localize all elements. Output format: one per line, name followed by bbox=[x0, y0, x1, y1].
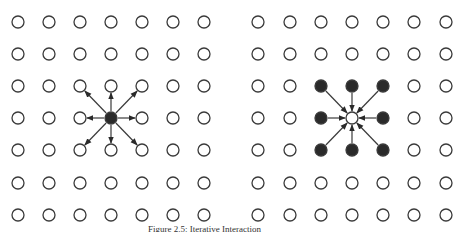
grid-node bbox=[167, 16, 179, 28]
grid-node bbox=[43, 177, 55, 189]
grid-node bbox=[105, 80, 117, 92]
grid-node bbox=[198, 112, 210, 124]
grid-node bbox=[440, 16, 452, 28]
grid-node bbox=[12, 177, 24, 189]
grid-node bbox=[167, 177, 179, 189]
grid-node bbox=[74, 177, 86, 189]
grid-node bbox=[198, 177, 210, 189]
grid-node bbox=[12, 16, 24, 28]
grid-node bbox=[74, 209, 86, 221]
grid-node bbox=[284, 144, 296, 156]
node-grid-diagram bbox=[0, 0, 466, 232]
grid-node bbox=[377, 80, 389, 92]
grid-node bbox=[408, 112, 420, 124]
grid-node bbox=[43, 80, 55, 92]
grid-node bbox=[136, 80, 148, 92]
grid-node bbox=[74, 80, 86, 92]
grid-node bbox=[315, 112, 327, 124]
grid-node bbox=[315, 16, 327, 28]
grid-node bbox=[105, 16, 117, 28]
grid-node bbox=[252, 144, 264, 156]
arrow bbox=[116, 123, 137, 145]
center-node bbox=[346, 112, 358, 124]
grid-node bbox=[346, 16, 358, 28]
grid-node bbox=[136, 209, 148, 221]
grid-node bbox=[346, 209, 358, 221]
grid-node bbox=[167, 112, 179, 124]
grid-node bbox=[12, 48, 24, 60]
grid-node bbox=[440, 209, 452, 221]
grid-node bbox=[346, 177, 358, 189]
grid-node bbox=[198, 48, 210, 60]
grid-node bbox=[198, 80, 210, 92]
arrow bbox=[326, 91, 347, 113]
grid-node bbox=[43, 144, 55, 156]
grid-node bbox=[377, 48, 389, 60]
grid-node bbox=[284, 112, 296, 124]
grid-node bbox=[408, 177, 420, 189]
grid-node bbox=[43, 48, 55, 60]
grid-node bbox=[136, 144, 148, 156]
grid-node bbox=[74, 144, 86, 156]
grid-node bbox=[408, 209, 420, 221]
grid-node bbox=[284, 177, 296, 189]
grid-node bbox=[252, 48, 264, 60]
grid-node bbox=[440, 144, 452, 156]
grid-node bbox=[105, 144, 117, 156]
grid-node bbox=[167, 144, 179, 156]
grid-node bbox=[315, 80, 327, 92]
grid-node bbox=[315, 177, 327, 189]
grid-node bbox=[346, 48, 358, 60]
grid-node bbox=[377, 144, 389, 156]
grid-node bbox=[105, 177, 117, 189]
arrow bbox=[116, 91, 137, 113]
grid-node bbox=[105, 48, 117, 60]
grid-node bbox=[440, 112, 452, 124]
grid-node bbox=[346, 80, 358, 92]
grid-node bbox=[284, 209, 296, 221]
grid-node bbox=[105, 209, 117, 221]
grid-node bbox=[198, 144, 210, 156]
grid-node bbox=[315, 144, 327, 156]
grid-node bbox=[167, 209, 179, 221]
grid-node bbox=[315, 209, 327, 221]
grid-node bbox=[284, 80, 296, 92]
grid-node bbox=[43, 16, 55, 28]
grid-node bbox=[252, 80, 264, 92]
grid-node bbox=[167, 80, 179, 92]
arrow bbox=[357, 123, 378, 145]
grid-node bbox=[136, 177, 148, 189]
grid-node bbox=[284, 16, 296, 28]
grid-node bbox=[408, 16, 420, 28]
grid-node bbox=[167, 48, 179, 60]
grid-node bbox=[252, 16, 264, 28]
grid-node bbox=[74, 48, 86, 60]
grid-node bbox=[377, 177, 389, 189]
grid-node bbox=[377, 112, 389, 124]
grid-node bbox=[198, 16, 210, 28]
grid-node bbox=[315, 48, 327, 60]
grid-node bbox=[377, 209, 389, 221]
right-grid-panel bbox=[252, 16, 452, 221]
grid-node bbox=[440, 80, 452, 92]
grid-node bbox=[43, 112, 55, 124]
grid-node bbox=[136, 48, 148, 60]
grid-node bbox=[408, 144, 420, 156]
grid-node bbox=[408, 80, 420, 92]
arrow bbox=[357, 91, 378, 113]
grid-node bbox=[12, 144, 24, 156]
grid-node bbox=[74, 16, 86, 28]
grid-node bbox=[284, 48, 296, 60]
figure-caption: Figure 2.5: Iterative Interaction bbox=[148, 224, 261, 232]
grid-node bbox=[12, 209, 24, 221]
grid-node bbox=[377, 16, 389, 28]
grid-node bbox=[198, 209, 210, 221]
grid-node bbox=[12, 112, 24, 124]
center-node bbox=[105, 112, 117, 124]
arrow bbox=[85, 91, 106, 113]
grid-node bbox=[74, 112, 86, 124]
grid-node bbox=[346, 144, 358, 156]
grid-node bbox=[408, 48, 420, 60]
arrow bbox=[85, 123, 106, 145]
grid-node bbox=[252, 209, 264, 221]
